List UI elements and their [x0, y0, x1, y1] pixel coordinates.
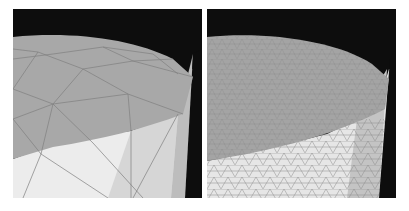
coarse-mesh-panel: coarse mesh: [13, 9, 202, 198]
refined-mesh-panel: refined mesh: [207, 9, 396, 198]
refined-cylinder-render: [207, 9, 396, 198]
coarse-cylinder-render: [13, 9, 202, 198]
